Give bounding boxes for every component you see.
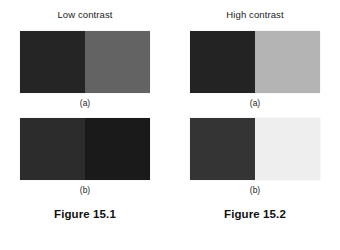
panel-label: (b) (250, 185, 260, 196)
swatch-half-right (85, 118, 150, 180)
panel-figure-15-1-b: (b) (20, 118, 150, 196)
panel-label: (a) (250, 98, 260, 109)
swatch-half-left (190, 31, 255, 93)
panel-figure-15-2-a: (a) (190, 31, 320, 109)
figure-caption-15-2: Figure 15.2 (224, 208, 286, 220)
contrast-swatch (190, 118, 320, 180)
contrast-swatch (190, 31, 320, 93)
swatch-half-left (190, 118, 255, 180)
panel-figure-15-1-a: (a) (20, 31, 150, 109)
figure-column-low-contrast: Low contrast (a) (b) Figure 15.1 (0, 0, 170, 250)
panel-label: (b) (80, 185, 90, 196)
contrast-swatch (20, 31, 150, 93)
contrast-swatch (20, 118, 150, 180)
swatch-half-right (255, 118, 320, 180)
swatch-half-left (20, 31, 85, 93)
figure-caption-15-1: Figure 15.1 (54, 208, 116, 220)
figure-column-high-contrast: High contrast (a) (b) Figure 15.2 (170, 0, 340, 250)
swatch-half-left (20, 118, 85, 180)
panel-label: (a) (80, 98, 90, 109)
figure-comparison-grid: Low contrast (a) (b) Figure 15.1 High co… (0, 0, 340, 250)
column-heading-low-contrast: Low contrast (57, 9, 112, 21)
swatch-half-right (85, 31, 150, 93)
swatch-half-right (255, 31, 320, 93)
panel-figure-15-2-b: (b) (190, 118, 320, 196)
column-heading-high-contrast: High contrast (226, 9, 283, 21)
